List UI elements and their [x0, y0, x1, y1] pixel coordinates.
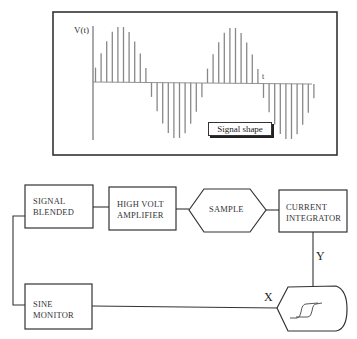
current-integrator-line2: INTEGRATOR	[286, 213, 341, 224]
sample-label: SAMPLE	[209, 204, 244, 215]
y-input-label: Y	[316, 249, 325, 264]
diagram-canvas	[0, 0, 357, 339]
high-volt-amplifier-label: HIGH VOLT AMPLIFIER	[117, 199, 164, 221]
high-volt-line1: HIGH VOLT	[117, 199, 164, 210]
x-input-label: X	[264, 290, 273, 305]
signal-shape-legend: Signal shape	[208, 122, 272, 136]
sine-monitor-line2: MONITOR	[33, 310, 74, 321]
signal-blended-line2: BLENDED	[33, 207, 74, 218]
y-axis-label: V(t)	[74, 25, 89, 35]
current-integrator-label: CURRENT INTEGRATOR	[286, 202, 341, 224]
signal-blended-label: SIGNAL BLENDED	[33, 196, 74, 218]
signal-blended-line1: SIGNAL	[33, 196, 74, 207]
sine-monitor-line1: SINE	[33, 299, 74, 310]
sine-monitor-label: SINE MONITOR	[33, 299, 74, 321]
current-integrator-line1: CURRENT	[286, 202, 341, 213]
high-volt-line2: AMPLIFIER	[117, 210, 164, 221]
oscilloscope-icon	[277, 286, 347, 331]
x-axis-label: t	[262, 72, 264, 81]
